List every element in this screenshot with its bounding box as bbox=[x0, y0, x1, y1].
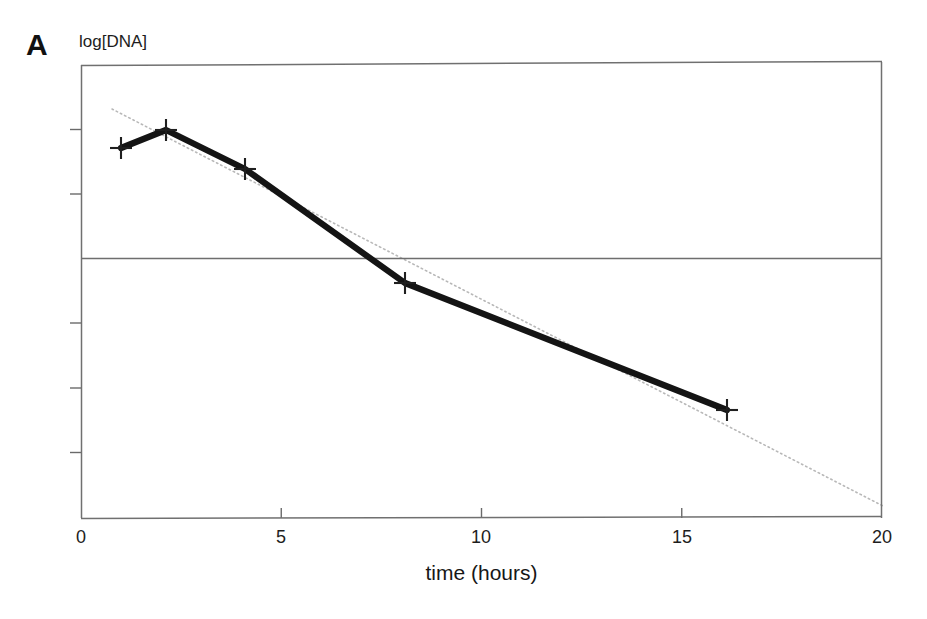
chart-plot-area bbox=[0, 0, 927, 619]
x-tick-label-5: 5 bbox=[276, 527, 286, 548]
x-tick-label-10: 10 bbox=[471, 527, 491, 548]
x-tick-label-0: 0 bbox=[76, 527, 86, 548]
data-point-marker bbox=[716, 399, 738, 421]
y-axis-ticks bbox=[70, 130, 81, 453]
x-tick-label-15: 15 bbox=[672, 527, 692, 548]
regression-trend-line bbox=[112, 109, 883, 506]
plot-frame bbox=[81, 62, 882, 519]
figure-panel-a: A log[DNA] bbox=[0, 0, 927, 619]
data-point-marker bbox=[155, 119, 177, 141]
data-series-line bbox=[121, 130, 727, 410]
x-tick-label-20: 20 bbox=[872, 527, 892, 548]
data-point-marker bbox=[110, 137, 132, 159]
x-axis-title: time (hours) bbox=[81, 561, 882, 585]
